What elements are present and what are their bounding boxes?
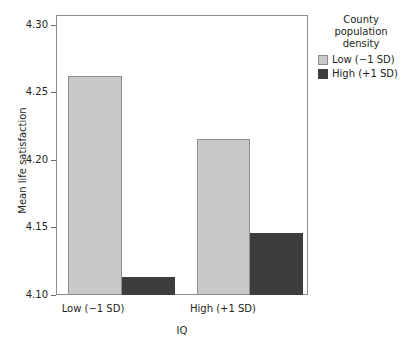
y-tick-label-4-25: 4.25 bbox=[8, 87, 48, 97]
bar-high-iq-low-density bbox=[197, 139, 250, 295]
bar-chart-figure: 4.10 4.15 4.20 4.25 4.30 Mean life satis… bbox=[0, 0, 407, 345]
y-tick-label-4-15: 4.15 bbox=[8, 222, 48, 232]
bar-low-iq-low-density bbox=[68, 76, 122, 295]
legend-label-low-density: Low (−1 SD) bbox=[332, 54, 395, 65]
x-axis-title: IQ bbox=[56, 325, 308, 336]
y-tick-label-4-20: 4.20 bbox=[8, 155, 48, 165]
legend-item-high-density: High (+1 SD) bbox=[318, 68, 404, 79]
y-tick-mark-4-10 bbox=[51, 295, 56, 296]
legend-swatch-high-density-icon bbox=[318, 69, 328, 79]
bars-layer bbox=[56, 15, 308, 295]
y-tick-label-4-10: 4.10 bbox=[8, 290, 48, 300]
y-tick-label-4-30: 4.30 bbox=[8, 20, 48, 30]
legend-label-high-density: High (+1 SD) bbox=[332, 68, 398, 79]
x-tick-label-high-iq: High (+1 SD) bbox=[163, 303, 283, 314]
bar-high-iq-high-density bbox=[250, 233, 303, 295]
y-axis-title: Mean life satisfaction bbox=[17, 91, 28, 231]
legend: County population density Low (−1 SD) Hi… bbox=[318, 14, 404, 82]
bar-low-iq-high-density bbox=[122, 277, 175, 295]
legend-item-low-density: Low (−1 SD) bbox=[318, 54, 404, 65]
x-tick-label-low-iq: Low (−1 SD) bbox=[33, 303, 153, 314]
legend-title: County population density bbox=[318, 14, 404, 50]
legend-swatch-low-density-icon bbox=[318, 55, 328, 65]
